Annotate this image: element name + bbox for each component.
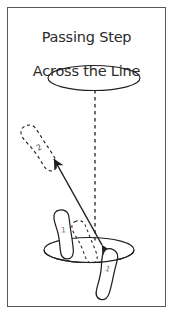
solid-footprint-right: 1 — [89, 247, 122, 301]
figure-panel: Passing Step Across the Line 2 — [0, 0, 176, 318]
foot-2-label: 2 — [35, 142, 44, 152]
lower-ellipse-front-arc — [44, 250, 134, 263]
foot-1-left-label: 1 — [61, 225, 66, 234]
upper-ellipse — [48, 66, 140, 91]
solid-footprint-left: 1 — [53, 209, 73, 259]
dashed-footprint-upper: 2 — [18, 121, 59, 176]
diagram-canvas: 2 1 1 — [0, 0, 176, 318]
